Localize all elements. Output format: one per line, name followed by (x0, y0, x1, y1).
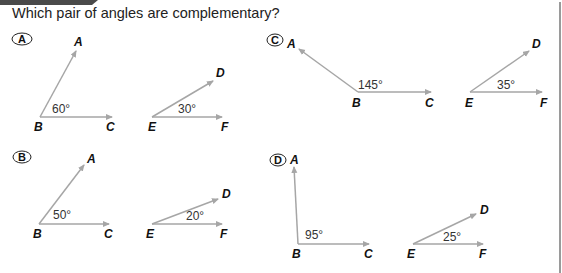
svg-text:30°: 30° (178, 102, 196, 116)
option-b[interactable]: B A B C 50° D E F 20° (13, 151, 231, 241)
svg-text:95°: 95° (305, 228, 323, 242)
svg-text:60°: 60° (52, 102, 70, 116)
svg-text:C: C (104, 227, 113, 241)
svg-text:B: B (34, 120, 43, 134)
angle-abc-d: A B C 95° (289, 153, 373, 261)
svg-text:B: B (33, 227, 42, 241)
svg-text:F: F (221, 120, 229, 134)
angle-abc-b: A B C 50° (33, 152, 113, 241)
svg-text:A: A (73, 35, 83, 49)
svg-text:B: B (352, 96, 361, 110)
svg-text:E: E (148, 120, 157, 134)
svg-text:F: F (220, 227, 228, 241)
svg-text:D: D (216, 66, 225, 80)
svg-text:D: D (222, 187, 231, 201)
svg-text:D: D (532, 37, 541, 51)
svg-text:C: C (425, 96, 434, 110)
svg-text:B: B (292, 247, 301, 261)
angle-abc-c: A B C 145° (286, 37, 434, 110)
angle-def-d: D E F 25° (407, 203, 489, 261)
svg-text:35°: 35° (497, 78, 515, 92)
svg-text:C: C (106, 120, 115, 134)
svg-text:20°: 20° (186, 209, 204, 223)
option-b-letter: B (18, 151, 26, 163)
svg-text:50°: 50° (53, 208, 71, 222)
figures: A A B C 60° D E F 30° C A B C 145° (0, 0, 562, 273)
option-a[interactable]: A A B C 60° D E F 30° (12, 33, 229, 134)
svg-text:E: E (465, 96, 474, 110)
svg-text:C: C (364, 247, 373, 261)
angle-def-b: D E F 20° (146, 187, 231, 241)
svg-text:D: D (480, 203, 489, 217)
option-c[interactable]: C A B C 145° D E F 35° (267, 34, 548, 110)
svg-text:A: A (289, 153, 299, 167)
angle-def-c: D E F 35° (465, 37, 548, 110)
svg-text:F: F (540, 96, 548, 110)
svg-text:E: E (146, 227, 155, 241)
svg-text:25°: 25° (443, 230, 461, 244)
angle-def-a: D E F 30° (148, 66, 229, 134)
svg-text:A: A (86, 152, 96, 166)
angle-abc-a: A B C 60° (34, 35, 115, 134)
svg-text:145°: 145° (358, 78, 383, 92)
option-c-letter: C (271, 34, 279, 46)
option-d[interactable]: D A B C 95° D E F 25° (270, 153, 489, 261)
option-d-letter: D (274, 154, 282, 166)
svg-text:E: E (407, 247, 416, 261)
svg-text:A: A (286, 37, 296, 51)
option-a-letter: A (18, 33, 26, 45)
svg-text:F: F (479, 247, 487, 261)
